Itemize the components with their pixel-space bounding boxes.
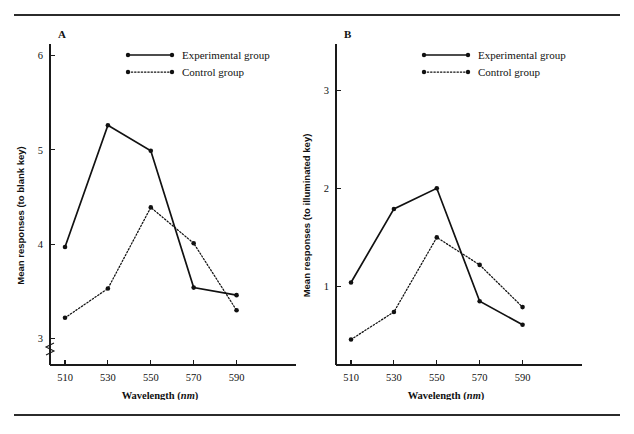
data-point-marker [191, 285, 196, 290]
legend-item-experimental-label: Experimental group [182, 49, 270, 61]
x-tick-label: 570 [186, 372, 202, 383]
y-tick-label: 3 [324, 85, 329, 96]
data-point-marker [392, 310, 397, 315]
y-tick-label: 3 [38, 333, 43, 344]
data-point-marker [106, 123, 111, 128]
data-point-marker [520, 322, 525, 327]
x-tick-label: 590 [515, 372, 531, 383]
y-axis-title: Mean responses (to illuminated key) [301, 134, 312, 298]
data-point-marker [106, 286, 111, 291]
x-tick-label: 510 [343, 372, 359, 383]
panel-b-plot: B123510530550570590Wavelength (nm)Mean r… [300, 20, 617, 400]
x-axis-title: Wavelength (nm) [408, 390, 485, 400]
data-point-marker [63, 245, 68, 250]
x-tick-label: 530 [386, 372, 402, 383]
panel-letter-b: B [344, 28, 352, 40]
data-point-marker [148, 205, 153, 210]
legend-item-experimental-marker-start [422, 53, 426, 57]
series-line-control [351, 237, 523, 339]
data-point-marker [349, 337, 354, 342]
legend-item-control-label: Control group [182, 66, 245, 78]
y-tick-label: 6 [38, 50, 43, 61]
legend-item-control-marker-end [170, 70, 174, 74]
data-point-marker [434, 186, 439, 191]
legend-item-control-marker-end [466, 70, 470, 74]
panels-container: A3456510530550570590Wavelength (nm)Mean … [0, 20, 634, 400]
y-tick-label: 4 [38, 239, 44, 250]
chart-panel-a: A3456510530550570590Wavelength (nm)Mean … [0, 20, 317, 400]
y-tick-label: 1 [324, 281, 329, 292]
data-point-marker [477, 299, 482, 304]
data-point-marker [434, 235, 439, 240]
x-tick-label: 530 [100, 372, 116, 383]
series-line-experimental [351, 188, 523, 324]
legend-item-control-marker-start [422, 70, 426, 74]
y-tick-label: 2 [324, 183, 329, 194]
x-tick-label: 550 [143, 372, 159, 383]
data-point-marker [392, 207, 397, 212]
y-axis-break-symbol [46, 343, 54, 355]
figure-frame: A3456510530550570590Wavelength (nm)Mean … [0, 0, 634, 434]
x-tick-label: 590 [229, 372, 245, 383]
legend-item-experimental-marker-end [170, 53, 174, 57]
x-tick-label: 570 [472, 372, 488, 383]
top-horizontal-rule [14, 14, 620, 16]
data-point-marker [191, 241, 196, 246]
legend-item-experimental-label: Experimental group [478, 49, 566, 61]
data-point-marker [148, 148, 153, 153]
legend-item-control-label: Control group [478, 66, 541, 78]
y-axis-title: Mean responses (to blank key) [15, 146, 26, 284]
x-axis-title: Wavelength (nm) [122, 390, 199, 400]
data-point-marker [520, 305, 525, 310]
y-tick-label: 5 [38, 145, 43, 156]
legend-item-experimental-marker-end [466, 53, 470, 57]
data-point-marker [63, 316, 68, 321]
chart-panel-b: B123510530550570590Wavelength (nm)Mean r… [300, 20, 617, 400]
panel-letter-a: A [58, 28, 66, 40]
bottom-horizontal-rule [14, 414, 620, 416]
x-tick-label: 510 [57, 372, 73, 383]
series-line-control [65, 207, 237, 317]
data-point-marker [477, 263, 482, 268]
legend-item-control-marker-start [126, 70, 130, 74]
x-tick-label: 550 [429, 372, 445, 383]
legend-item-experimental-marker-start [126, 53, 130, 57]
data-point-marker [234, 293, 239, 298]
data-point-marker [234, 308, 239, 313]
panel-a-plot: A3456510530550570590Wavelength (nm)Mean … [0, 20, 317, 400]
data-point-marker [349, 280, 354, 285]
